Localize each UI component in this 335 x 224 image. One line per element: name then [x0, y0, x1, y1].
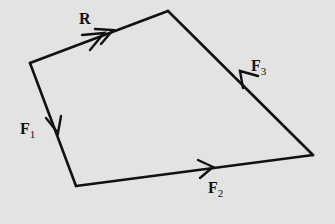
label-f2-sub: 2 — [218, 187, 224, 199]
vector-diagram: R F1 F2 F3 — [0, 0, 335, 224]
force-polygon — [0, 0, 335, 224]
vector-f2-line — [76, 155, 313, 186]
label-f1: F1 — [20, 121, 35, 140]
label-r: R — [79, 11, 91, 27]
label-f3-main: F — [251, 57, 261, 74]
vector-f3-line — [168, 11, 313, 155]
vector-r-line — [30, 11, 168, 63]
label-r-text: R — [79, 10, 91, 27]
label-f1-sub: 1 — [30, 128, 36, 140]
label-f3: F3 — [251, 58, 266, 77]
label-f2-main: F — [208, 179, 218, 196]
vector-f1-line — [30, 63, 76, 186]
label-f2: F2 — [208, 180, 223, 199]
label-f1-main: F — [20, 120, 30, 137]
label-f3-sub: 3 — [261, 65, 267, 77]
